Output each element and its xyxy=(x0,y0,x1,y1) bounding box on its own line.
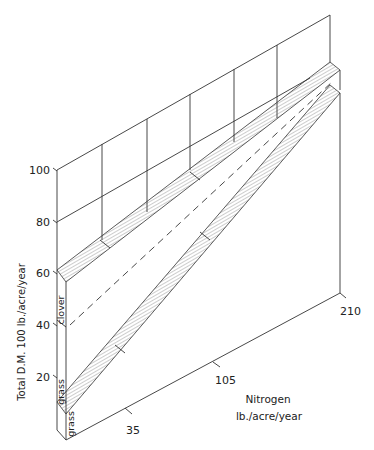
face-label-grass-lower: grass xyxy=(65,411,76,437)
clover-boundary-line xyxy=(70,82,332,325)
chart: 100 80 60 40 20 Total D.M. 100 lb./acre/… xyxy=(0,0,374,450)
x-axis-title-line1: Nitrogen xyxy=(245,393,290,405)
y-tick-40: 40 xyxy=(36,319,50,332)
face-label-grass-upper: grass xyxy=(55,379,66,405)
y-tick-80: 80 xyxy=(36,216,50,229)
y-ticks xyxy=(53,168,57,378)
front-faces xyxy=(57,93,340,440)
y-tick-100: 100 xyxy=(29,164,50,177)
x-tick-210: 210 xyxy=(340,305,361,318)
y-tick-20: 20 xyxy=(36,371,50,384)
y-tick-60: 60 xyxy=(36,267,50,280)
y-axis-title: Total D.M. 100 lb./acre/year xyxy=(16,262,27,402)
x-tick-35: 35 xyxy=(126,424,140,437)
face-label-clover: clover xyxy=(55,295,66,324)
x-axis-title-line2: lb./acre/year xyxy=(236,410,303,422)
x-ticks xyxy=(125,293,346,414)
x-tick-105: 105 xyxy=(215,374,236,387)
